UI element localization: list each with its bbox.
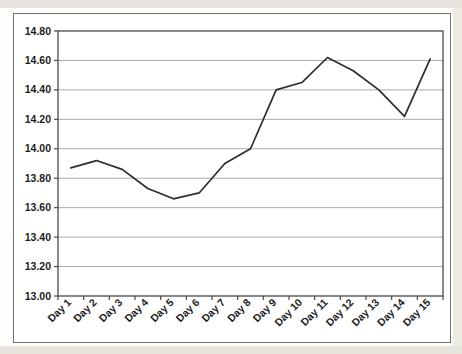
y-tick-label: 14.60 xyxy=(25,54,51,66)
y-tick-label: 13.40 xyxy=(25,231,51,243)
x-tick-label: Day 15 xyxy=(400,296,433,329)
plot-border xyxy=(58,31,443,296)
chart-frame: 14.8014.6014.4014.2014.0013.8013.6013.40… xyxy=(13,13,451,343)
y-tick-label: 13.00 xyxy=(25,290,51,302)
x-tick-label: Day 10 xyxy=(272,296,305,329)
y-tick-label: 13.80 xyxy=(25,172,51,184)
x-tick-label: Day 12 xyxy=(323,296,356,329)
page: 14.8014.6014.4014.2014.0013.8013.6013.40… xyxy=(0,0,462,354)
x-tick-label: Day 13 xyxy=(349,296,382,329)
right-strip xyxy=(453,8,462,346)
series-line xyxy=(71,58,430,199)
y-tick-label: 14.40 xyxy=(25,83,51,95)
x-tick-label: Day 3 xyxy=(96,296,124,324)
x-tick-label: Day 8 xyxy=(225,296,253,324)
x-tick-label: Day 5 xyxy=(148,296,176,324)
bottom-strip xyxy=(0,346,462,354)
top-strip xyxy=(0,0,462,8)
y-tick-label: 13.60 xyxy=(25,201,51,213)
line-chart: 14.8014.6014.4014.2014.0013.8013.6013.40… xyxy=(14,14,450,342)
y-tick-label: 14.80 xyxy=(25,25,51,37)
x-tick-label: Day 14 xyxy=(374,296,407,329)
y-tick-label: 14.00 xyxy=(25,142,51,154)
x-tick-label: Day 4 xyxy=(122,296,150,324)
y-tick-label: 14.20 xyxy=(25,113,51,125)
x-tick-label: Day 7 xyxy=(199,296,227,324)
y-tick-label: 13.20 xyxy=(25,260,51,272)
x-tick-label: Day 6 xyxy=(173,296,201,324)
x-tick-label: Day 2 xyxy=(71,296,99,324)
